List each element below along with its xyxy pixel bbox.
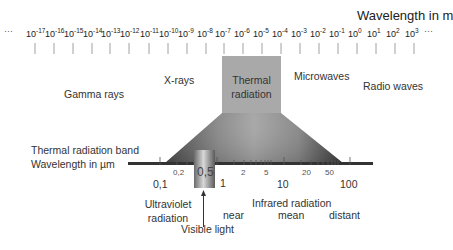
tick-exponent: -16 xyxy=(55,27,64,34)
wavelength-tick-label: 10-10 xyxy=(159,27,178,39)
wavelength-tick-label: 10-3 xyxy=(291,27,307,39)
ellipsis-left: ··· xyxy=(4,26,13,36)
band-label-2: 2 xyxy=(241,168,245,177)
ultraviolet-label: Ultraviolet radiation xyxy=(138,197,198,225)
tick-base: 10 xyxy=(329,29,339,39)
tick-base: 10 xyxy=(101,29,111,39)
wavelength-tick-label: 10-5 xyxy=(253,27,269,39)
tick-exponent: -2 xyxy=(320,27,326,34)
tick-base: 10 xyxy=(45,29,55,39)
tick-exponent: -17 xyxy=(36,27,45,34)
tick-base: 10 xyxy=(253,29,263,39)
tick-exponent: -4 xyxy=(282,27,288,34)
thermal-line-1: Thermal xyxy=(222,73,281,87)
wavelength-tick-label: 10-4 xyxy=(272,27,288,39)
tick-base: 10 xyxy=(348,29,358,39)
tick-base: 10 xyxy=(26,29,36,39)
visible-light-arrow xyxy=(201,190,206,227)
band-label-100: 100 xyxy=(340,178,358,190)
tick-base: 10 xyxy=(234,29,244,39)
band-label-20: 20 xyxy=(302,168,311,177)
region-x-rays: X-rays xyxy=(164,74,194,86)
wavelength-tick-marks xyxy=(35,43,414,54)
tick-base: 10 xyxy=(405,29,415,39)
infrared-distant-label: distant xyxy=(329,209,360,221)
tick-exponent: -13 xyxy=(111,27,120,34)
tick-exponent: -7 xyxy=(225,27,231,34)
wavelength-tick-label: 10-12 xyxy=(120,27,139,39)
band-label-0-5: 0,5 xyxy=(197,165,214,179)
wavelength-tick-label: 10-15 xyxy=(64,27,83,39)
wavelength-tick-label: 100 xyxy=(348,27,362,39)
tick-base: 10 xyxy=(197,29,207,39)
wavelength-tick-label: 10-2 xyxy=(310,27,326,39)
wavelength-tick-label: 10-1 xyxy=(329,27,345,39)
region-microwaves: Microwaves xyxy=(294,70,349,82)
tick-base: 10 xyxy=(215,29,225,39)
tick-exponent: 0 xyxy=(358,27,362,34)
wavelength-tick-label: 10-9 xyxy=(178,27,194,39)
tick-exponent: -5 xyxy=(263,27,269,34)
tick-exponent: -3 xyxy=(301,27,307,34)
band-label-0-2: 0,2 xyxy=(173,168,184,177)
thermal-line-2: radiation xyxy=(222,87,281,101)
tick-exponent: -9 xyxy=(188,27,194,34)
band-label-5: 5 xyxy=(264,168,268,177)
wavelength-tick-label: 102 xyxy=(386,27,400,39)
axis-title: Wavelength in m xyxy=(357,8,453,23)
band-title: Thermal radiation band Wavelength in µm xyxy=(31,143,139,171)
wavelength-tick-label: 10-14 xyxy=(83,27,102,39)
tick-exponent: -11 xyxy=(150,27,159,34)
band-label-0-1: 0,1 xyxy=(153,178,168,190)
wavelength-tick-label: 10-6 xyxy=(234,27,250,39)
tick-exponent: 2 xyxy=(396,27,400,34)
wavelength-tick-label: 101 xyxy=(367,27,381,39)
tick-exponent: -6 xyxy=(244,27,250,34)
uv-line-1: Ultraviolet xyxy=(138,197,198,211)
wavelength-tick-label: 10-8 xyxy=(197,27,213,39)
wavelength-tick-label: 10-13 xyxy=(101,27,120,39)
tick-exponent: -10 xyxy=(169,27,178,34)
tick-exponent: -15 xyxy=(74,27,83,34)
region-thermal-radiation: Thermal radiation xyxy=(222,73,281,101)
wavelength-tick-label: 103 xyxy=(405,27,419,39)
ellipsis-right: ··· xyxy=(424,26,433,36)
wavelength-tick-label: 10-17 xyxy=(26,27,45,39)
wavelength-tick-label: 10-11 xyxy=(140,27,159,39)
tick-base: 10 xyxy=(178,29,188,39)
band-label-50: 50 xyxy=(325,168,334,177)
band-label-1: 1 xyxy=(220,177,226,189)
band-title-line-1: Thermal radiation band xyxy=(31,143,139,157)
infrared-near-label: near xyxy=(223,209,244,221)
tick-exponent: -1 xyxy=(339,27,345,34)
tick-base: 10 xyxy=(83,29,93,39)
tick-exponent: -12 xyxy=(130,27,139,34)
tick-base: 10 xyxy=(272,29,282,39)
band-label-10: 10 xyxy=(277,178,289,190)
tick-base: 10 xyxy=(140,29,150,39)
region-gamma-rays: Gamma rays xyxy=(64,88,124,100)
tick-base: 10 xyxy=(386,29,396,39)
tick-base: 10 xyxy=(64,29,74,39)
tick-exponent: 3 xyxy=(415,27,419,34)
wavelength-tick-label: 10-16 xyxy=(45,27,64,39)
band-title-line-2: Wavelength in µm xyxy=(31,157,139,171)
tick-exponent: 1 xyxy=(377,27,381,34)
tick-base: 10 xyxy=(120,29,130,39)
tick-base: 10 xyxy=(291,29,301,39)
band-baseline xyxy=(128,162,373,165)
tick-exponent: -8 xyxy=(207,27,213,34)
infrared-mean-label: mean xyxy=(278,209,304,221)
wavelength-tick-label: 10-7 xyxy=(215,27,231,39)
visible-light-label: Visible light xyxy=(181,223,234,235)
tick-base: 10 xyxy=(159,29,169,39)
region-radio-waves: Radio waves xyxy=(363,80,423,92)
tick-base: 10 xyxy=(367,29,377,39)
infrared-label: Infrared radiation xyxy=(252,197,331,209)
tick-base: 10 xyxy=(310,29,320,39)
